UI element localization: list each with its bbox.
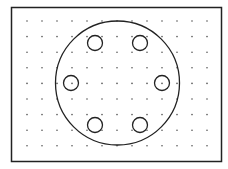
grid-dot bbox=[146, 51, 148, 53]
grid-dot bbox=[161, 36, 163, 38]
grid-dot bbox=[146, 20, 148, 22]
grid-dot bbox=[131, 83, 133, 85]
grid-dot bbox=[191, 83, 193, 85]
grid-dot bbox=[41, 83, 43, 85]
grid-dot bbox=[56, 114, 58, 116]
grid-dot bbox=[41, 51, 43, 53]
grid-dot bbox=[131, 36, 133, 38]
grid-dot bbox=[116, 51, 118, 53]
grid-dot bbox=[176, 20, 178, 22]
grid-dot bbox=[86, 51, 88, 53]
grid-dot bbox=[71, 98, 73, 100]
grid-dot bbox=[86, 20, 88, 22]
grid-dot bbox=[146, 36, 148, 38]
grid-dot bbox=[26, 98, 28, 100]
grid-dot bbox=[116, 36, 118, 38]
grid-dot bbox=[26, 20, 28, 22]
grid-dot bbox=[146, 67, 148, 69]
grid-dot bbox=[41, 20, 43, 22]
grid-dot bbox=[191, 67, 193, 69]
grid-dot bbox=[191, 145, 193, 147]
grid-dot bbox=[206, 36, 208, 38]
grid-dot bbox=[176, 114, 178, 116]
hole-circle bbox=[133, 36, 148, 51]
grid-dot bbox=[161, 67, 163, 69]
grid-dot bbox=[191, 98, 193, 100]
grid-dot bbox=[56, 20, 58, 22]
grid-dot bbox=[161, 98, 163, 100]
grid-dot bbox=[101, 114, 103, 116]
grid-dot bbox=[26, 67, 28, 69]
grid-dot bbox=[86, 98, 88, 100]
grid-dot bbox=[176, 51, 178, 53]
grid-dot bbox=[191, 51, 193, 53]
grid-dot bbox=[56, 83, 58, 85]
grid-dot bbox=[116, 98, 118, 100]
grid-dot bbox=[71, 129, 73, 131]
grid-dot bbox=[146, 114, 148, 116]
grid-dot bbox=[176, 129, 178, 131]
grid-dot bbox=[71, 83, 73, 85]
grid-dot bbox=[26, 129, 28, 131]
hole-circle bbox=[88, 118, 103, 133]
grid-dot bbox=[101, 98, 103, 100]
grid-dot bbox=[191, 129, 193, 131]
grid-dot bbox=[161, 20, 163, 22]
grid-dot bbox=[116, 83, 118, 85]
grid-dot bbox=[26, 51, 28, 53]
grid-dot bbox=[206, 20, 208, 22]
grid-dot bbox=[56, 51, 58, 53]
grid-dot bbox=[101, 51, 103, 53]
grid-dot bbox=[146, 145, 148, 147]
grid-dot bbox=[41, 67, 43, 69]
grid-dot bbox=[176, 36, 178, 38]
grid-dot bbox=[41, 145, 43, 147]
grid-dot bbox=[86, 114, 88, 116]
grid-dot bbox=[131, 129, 133, 131]
grid-dot bbox=[101, 83, 103, 85]
grid-dot bbox=[206, 129, 208, 131]
grid-dot bbox=[206, 98, 208, 100]
grid-dot bbox=[131, 51, 133, 53]
grid-dot bbox=[206, 67, 208, 69]
grid-dot bbox=[206, 145, 208, 147]
grid-dot bbox=[191, 114, 193, 116]
grid-dot bbox=[191, 20, 193, 22]
grid-dot bbox=[56, 129, 58, 131]
grid-dot bbox=[26, 114, 28, 116]
grid-dot bbox=[56, 145, 58, 147]
grid-dot bbox=[131, 145, 133, 147]
grid-dot bbox=[206, 51, 208, 53]
grid-dot bbox=[176, 145, 178, 147]
dot-grid bbox=[26, 20, 208, 146]
grid-dot bbox=[131, 20, 133, 22]
grid-dot bbox=[101, 36, 103, 38]
hole-circle bbox=[64, 76, 79, 91]
grid-dot bbox=[191, 36, 193, 38]
grid-dot bbox=[71, 145, 73, 147]
grid-dot bbox=[86, 67, 88, 69]
grid-dot bbox=[41, 36, 43, 38]
grid-dot bbox=[41, 114, 43, 116]
grid-dot bbox=[86, 129, 88, 131]
grid-dot bbox=[86, 145, 88, 147]
grid-dot bbox=[101, 67, 103, 69]
grid-dot bbox=[116, 129, 118, 131]
grid-dot bbox=[56, 36, 58, 38]
grid-dot bbox=[161, 51, 163, 53]
grid-dot bbox=[176, 83, 178, 85]
grid-dot bbox=[101, 145, 103, 147]
grid-dot bbox=[131, 114, 133, 116]
grid-dot bbox=[161, 129, 163, 131]
grid-dot bbox=[206, 114, 208, 116]
grid-dot bbox=[131, 98, 133, 100]
grid-dot bbox=[71, 20, 73, 22]
grid-dot bbox=[86, 83, 88, 85]
grid-dot bbox=[71, 36, 73, 38]
grid-dot bbox=[71, 114, 73, 116]
grid-dot bbox=[116, 114, 118, 116]
frame-border bbox=[12, 8, 222, 162]
grid-dot bbox=[71, 67, 73, 69]
grid-dot bbox=[26, 145, 28, 147]
grid-dot bbox=[41, 98, 43, 100]
